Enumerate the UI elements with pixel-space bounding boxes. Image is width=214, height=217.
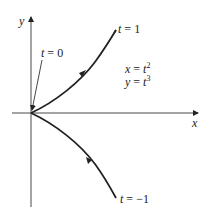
label-t0: t = 0 [41, 47, 63, 59]
tneg1-eq: = [123, 192, 136, 206]
t0-eq: = [44, 46, 57, 60]
x-axis-label-text: x [192, 116, 197, 130]
x-axis-label: x [192, 117, 197, 129]
label-t1: t = 1 [118, 23, 140, 35]
t0-pointer-line [32, 60, 42, 110]
t1-pointer-line [114, 30, 116, 33]
t0-val: 0 [57, 46, 63, 60]
curve-lower-branch [31, 113, 116, 198]
eq-y-exp: 3 [146, 74, 150, 83]
eq-x-exp: 2 [146, 61, 150, 70]
eq-y-eq: = [130, 75, 143, 89]
label-t-neg1: t = −1 [120, 193, 149, 205]
eq-x-eq: = [130, 62, 143, 76]
parametric-plot [0, 0, 214, 217]
t1-eq: = [121, 22, 134, 36]
tneg1-val: −1 [136, 192, 149, 206]
y-axis-label-text: y [19, 14, 24, 28]
y-axis-label: y [19, 15, 24, 27]
t1-val: 1 [134, 22, 140, 36]
curve-upper-branch [31, 30, 116, 113]
equation-y: y = t3 [125, 75, 150, 88]
